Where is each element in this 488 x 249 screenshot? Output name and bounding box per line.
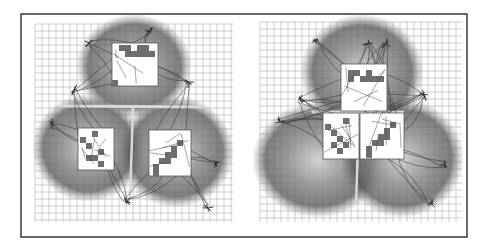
staircase-cell <box>92 155 98 161</box>
staircase-cell <box>354 70 360 76</box>
staircase-cell <box>343 118 349 124</box>
staircase-cell <box>348 70 354 76</box>
staircase-cell <box>165 158 171 164</box>
staircase-cell <box>153 170 159 176</box>
staircase-cell <box>86 143 92 149</box>
staircase-cell <box>80 137 86 143</box>
staircase-cell <box>98 161 104 167</box>
staircase-cell <box>372 76 378 82</box>
target-box <box>341 64 387 111</box>
staircase-cell <box>378 76 384 82</box>
staircase-cell <box>171 146 177 152</box>
figure-canvas <box>0 0 488 249</box>
target-box <box>360 113 404 159</box>
staircase-cell <box>384 134 390 140</box>
staircase-cell <box>325 124 331 130</box>
staircase-cell <box>171 152 177 158</box>
staircase-cell <box>378 134 384 140</box>
target-box <box>112 43 158 86</box>
staircase-cell <box>337 136 343 142</box>
staircase-cell <box>143 51 149 57</box>
staircase-cell <box>343 142 349 148</box>
target-box <box>149 130 191 176</box>
staircase-cell <box>366 76 372 82</box>
staircase-cell <box>125 51 131 57</box>
staircase-cell <box>137 51 143 57</box>
staircase-cell <box>125 45 131 51</box>
target-box <box>323 113 359 159</box>
target-box <box>78 128 114 170</box>
staircase-cell <box>348 76 354 82</box>
staircase-cell <box>366 152 372 158</box>
staircase-cell <box>131 51 137 57</box>
staircase-cell <box>366 70 372 76</box>
panel-left <box>32 14 234 222</box>
staircase-cell <box>378 140 384 146</box>
staircase-cell <box>112 80 118 86</box>
staircase-cell <box>92 131 98 137</box>
staircase-cell <box>119 45 125 51</box>
staircase-cell <box>360 76 366 82</box>
staircase-cell <box>143 45 149 51</box>
staircase-cell <box>149 51 155 57</box>
seam-horizontal <box>60 106 205 107</box>
staircase-cell <box>337 148 343 154</box>
staircase-cell <box>137 45 143 51</box>
staircase-cell <box>384 128 390 134</box>
